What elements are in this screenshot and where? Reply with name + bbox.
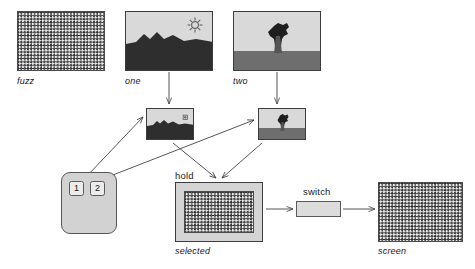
sun-icon-small <box>183 115 187 119</box>
mountain-shape <box>126 32 213 71</box>
two-label: two <box>233 76 248 86</box>
edge-thumb-two-to-selected <box>222 143 262 178</box>
screen-label: screen <box>378 246 406 256</box>
hold-label: hold <box>175 170 194 181</box>
switch-label: switch <box>303 186 331 197</box>
edge-remote-to-thumb-one <box>87 117 143 176</box>
thumbnail-one-artwork <box>147 109 194 140</box>
thumbnail-two-artwork <box>259 109 306 140</box>
diagram-canvas: fuzz one two <box>0 0 475 269</box>
screen-texture-block <box>378 182 463 242</box>
remote-button-1[interactable]: 1 <box>69 181 84 196</box>
thumbnail-one <box>146 108 194 140</box>
thumbnail-two <box>258 108 306 140</box>
remote-button-2[interactable]: 2 <box>90 181 105 196</box>
selected-texture-block <box>184 191 254 233</box>
selected-label: selected <box>175 246 210 256</box>
hold-container <box>175 182 263 242</box>
mountain-shape-small <box>147 120 194 140</box>
remote-control[interactable]: 1 2 <box>61 172 117 234</box>
picture-two <box>233 11 321 71</box>
picture-one-artwork <box>126 12 213 71</box>
fuzz-texture-block <box>17 11 105 71</box>
one-label: one <box>125 76 141 86</box>
fuzz-label: fuzz <box>17 76 34 86</box>
picture-one <box>125 11 213 71</box>
switch-box[interactable] <box>296 201 341 217</box>
sun-icon <box>188 18 203 33</box>
picture-two-artwork <box>234 12 321 71</box>
